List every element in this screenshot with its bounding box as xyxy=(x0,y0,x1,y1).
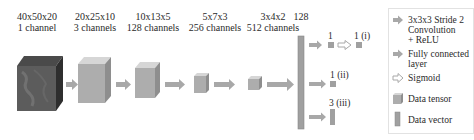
layer-dims: 40x50x20 xyxy=(6,11,68,22)
data-vector-icon xyxy=(395,112,400,126)
output-unit-1-post xyxy=(356,42,362,48)
output-label-2: 1 (ii) xyxy=(330,70,349,80)
legend-conv-label: 3x3x3 Stride 2 Convolution + ReLU xyxy=(408,15,464,45)
fc-arrow-icon xyxy=(393,50,403,59)
layer-channels: 256 channels xyxy=(182,22,248,33)
output-vector-3 xyxy=(330,109,335,125)
output-label-1-post: 1 (i) xyxy=(354,31,370,41)
output-label-1-pre: 1 xyxy=(328,31,333,41)
conv-arrow-4 xyxy=(214,79,235,90)
output-label-3: 3 (iii) xyxy=(329,98,350,108)
data-tensor-icon xyxy=(393,93,403,104)
output-unit-1-pre xyxy=(328,42,334,48)
sigmoid-arrow-icon xyxy=(393,74,403,83)
fc-arrow-1 xyxy=(267,78,294,91)
tensor-layer-4 xyxy=(194,73,209,93)
conv-arrow-3 xyxy=(165,79,185,90)
layer-label-1: 40x50x20 1 channel xyxy=(6,11,68,33)
fc-arrow-branch-1 xyxy=(309,41,322,50)
fc-arrow-branch-3 xyxy=(309,113,326,122)
layer-label-4: 5x7x3 256 channels xyxy=(182,11,248,33)
legend-tensor-label: Data tensor xyxy=(408,94,452,104)
layer-dims: 10x13x5 xyxy=(120,11,186,22)
output-unit-2 xyxy=(330,81,336,87)
layer-dims: 5x7x3 xyxy=(182,11,248,22)
legend-vector-label: Data vector xyxy=(408,115,452,125)
legend-sigmoid-label: Sigmoid xyxy=(408,73,440,83)
conv-arrow-1 xyxy=(66,79,78,90)
feature-vector-128 xyxy=(298,36,304,129)
layer-channels: 1 channel xyxy=(6,22,68,33)
layer-label-2: 20x25x10 3 channels xyxy=(64,11,126,33)
legend-fc-label: Fully connected layer xyxy=(408,49,469,69)
layer-channels: 512 channels xyxy=(240,22,306,33)
conv-arrow-2 xyxy=(116,79,131,90)
conv-arrow-icon xyxy=(393,16,403,25)
layer-channels: 128 channels xyxy=(120,22,186,33)
layer-label-6: 128 xyxy=(290,11,312,22)
fc-arrow-branch-2 xyxy=(309,80,326,89)
layer-dims: 20x25x10 xyxy=(64,11,126,22)
layer-channels: 3 channels xyxy=(64,22,126,33)
sigmoid-arrow xyxy=(338,41,351,50)
tensor-layer-5 xyxy=(248,76,262,90)
tensor-layer-3 xyxy=(135,62,160,98)
tensor-layer-2 xyxy=(78,57,111,103)
layer-label-3: 10x13x5 128 channels xyxy=(120,11,186,33)
layer-dims: 128 xyxy=(290,11,312,22)
input-tensor xyxy=(17,56,63,111)
legend: 3x3x3 Stride 2 Convolution + ReLU Fully … xyxy=(388,8,474,134)
